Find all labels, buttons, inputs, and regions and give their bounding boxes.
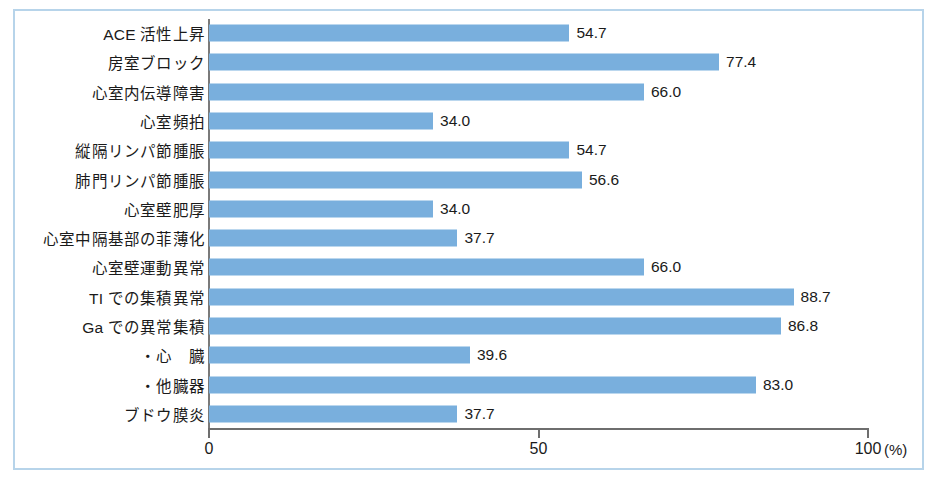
x-axis-tick-mark [538,430,540,438]
bar-fill [209,200,433,217]
bar-row: 縦隔リンパ節腫脹54.7 [0,136,938,164]
bar-row: 心室中隔基部の菲薄化37.7 [0,224,938,252]
bar-row: Ga での異常集積86.8 [0,312,938,340]
bar-value-label: 86.8 [788,317,818,335]
bar-category-label: ・心 臓 [140,344,205,366]
bar-value-label: 37.7 [464,229,494,247]
bar-value-label: 56.6 [589,171,619,189]
bar-value-label: 34.0 [440,112,470,130]
bar-value-label: 39.6 [477,346,507,364]
x-axis-tick-mark [208,430,210,438]
bar-track [209,54,719,71]
bar-fill [209,230,457,247]
bar-fill [209,171,582,188]
bar-value-label: 88.7 [801,288,831,306]
bar-category-label: 房室ブロック [108,51,205,73]
bar-fill [209,259,644,276]
x-axis-tick-mark [867,430,869,438]
bar-value-label: 54.7 [576,141,606,159]
bar-fill [209,54,719,71]
bar-fill [209,83,644,100]
x-axis-tick-label: 0 [205,440,214,458]
bar-category-label: ・他臓器 [140,374,205,396]
bar-value-label: 66.0 [651,83,681,101]
bar-row: TI での集積異常88.7 [0,283,938,311]
bar-row: 心室内伝導障害66.0 [0,78,938,106]
bar-track [209,347,470,364]
bar-category-label: TI での集積異常 [89,286,205,308]
bar-track [209,83,644,100]
bar-row: ACE 活性上昇54.7 [0,19,938,47]
x-axis-unit-label: (%) [884,441,907,458]
bar-row: 心室壁運動異常66.0 [0,253,938,281]
bar-row: 心室壁肥厚34.0 [0,195,938,223]
bar-value-label: 77.4 [726,53,756,71]
bar-category-label: 肺門リンパ節腫脹 [75,169,205,191]
bar-track [209,200,433,217]
bar-value-label: 83.0 [763,376,793,394]
bar-fill [209,405,457,422]
bar-row: ・心 臓39.6 [0,341,938,369]
bar-track [209,112,433,129]
bar-chart-figure: ACE 活性上昇54.7房室ブロック77.4心室内伝導障害66.0心室頻拍34.… [0,0,938,483]
bar-track [209,25,569,42]
bar-track [209,288,794,305]
bar-category-label: ACE 活性上昇 [103,22,205,44]
bar-fill [209,347,470,364]
bar-fill [209,112,433,129]
bar-category-label: 心室壁運動異常 [92,256,205,278]
plot-area: ACE 活性上昇54.7房室ブロック77.4心室内伝導障害66.0心室頻拍34.… [0,0,938,483]
bar-category-label: 心室壁肥厚 [124,198,205,220]
bar-fill [209,142,569,159]
bar-fill [209,376,756,393]
bar-fill [209,25,569,42]
bar-track [209,405,457,422]
x-axis-tick-label: 50 [530,440,548,458]
bar-category-label: 心室中隔基部の菲薄化 [43,227,205,249]
bar-fill [209,288,794,305]
bar-row: 房室ブロック77.4 [0,48,938,76]
bar-track [209,318,781,335]
bar-track [209,142,569,159]
bar-value-label: 54.7 [576,24,606,42]
bar-category-label: 心室頻拍 [140,110,205,132]
bar-row: ブドウ膜炎37.7 [0,400,938,428]
bar-category-label: ブドウ膜炎 [124,403,205,425]
bar-track [209,259,644,276]
bar-row: ・他臓器83.0 [0,371,938,399]
bar-track [209,376,756,393]
bar-fill [209,318,781,335]
x-axis-tick-label: 100 [855,440,882,458]
bar-row: 肺門リンパ節腫脹56.6 [0,166,938,194]
bar-value-label: 34.0 [440,200,470,218]
bar-track [209,171,582,188]
bar-row: 心室頻拍34.0 [0,107,938,135]
bar-value-label: 66.0 [651,258,681,276]
bar-value-label: 37.7 [464,405,494,423]
bar-category-label: 縦隔リンパ節腫脹 [75,139,205,161]
bar-category-label: Ga での異常集積 [82,315,205,337]
bar-track [209,230,457,247]
bar-category-label: 心室内伝導障害 [92,81,205,103]
